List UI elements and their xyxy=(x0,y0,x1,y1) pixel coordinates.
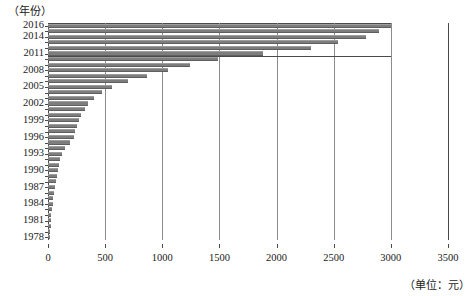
y-tick-1984: 1984 xyxy=(23,198,44,209)
y-tick-mark xyxy=(45,37,48,38)
y-axis-tick-labels: 2016201420112008200520021999199619931990… xyxy=(0,23,44,240)
y-tick-1996: 1996 xyxy=(23,132,44,143)
bar-2015 xyxy=(48,29,379,33)
y-tick-mark xyxy=(45,93,48,94)
y-tick-1990: 1990 xyxy=(23,165,44,176)
y-tick-mark xyxy=(45,198,48,199)
y-tick-mark xyxy=(45,170,48,171)
x-axis-tick-labels: 0500100015002000250030003500 xyxy=(0,244,476,264)
bar-2016 xyxy=(48,24,391,28)
bar-1980 xyxy=(48,224,51,228)
bar-2014 xyxy=(48,35,366,39)
bar-2000 xyxy=(48,113,81,117)
y-tick-mark xyxy=(45,31,48,32)
bar-1996 xyxy=(48,135,74,139)
bar-2010 xyxy=(48,57,218,61)
x-tick-mark-1500 xyxy=(219,244,220,248)
y-tick-mark xyxy=(45,59,48,60)
x-tick-mark-2000 xyxy=(277,244,278,248)
y-tick-mark xyxy=(45,237,48,238)
x-tick-500: 500 xyxy=(97,252,113,263)
y-tick-mark xyxy=(45,232,48,233)
y-tick-mark xyxy=(45,98,48,99)
y-tick-mark xyxy=(45,226,48,227)
bar-1989 xyxy=(48,174,57,178)
y-tick-mark xyxy=(45,104,48,105)
bar-1995 xyxy=(48,140,70,144)
bar-1983 xyxy=(48,207,52,211)
x-axis-title: （单位：元） xyxy=(404,276,470,292)
y-axis-title: （年份） xyxy=(8,2,52,18)
y-tick-mark xyxy=(45,176,48,177)
y-tick-mark xyxy=(45,54,48,55)
y-tick-1987: 1987 xyxy=(23,182,44,193)
bar-1991 xyxy=(48,163,59,167)
y-tick-1981: 1981 xyxy=(23,215,44,226)
bar-chart: （年份） 20162014201120082005200219991996199… xyxy=(0,0,476,296)
plot-area xyxy=(48,23,448,240)
bar-1981 xyxy=(48,218,51,222)
y-tick-1999: 1999 xyxy=(23,115,44,126)
bar-1998 xyxy=(48,124,77,128)
bar-2001 xyxy=(48,107,85,111)
mid-rule xyxy=(48,56,391,57)
y-tick-1978: 1978 xyxy=(23,232,44,243)
y-tick-mark xyxy=(45,182,48,183)
y-tick-2014: 2014 xyxy=(23,31,44,42)
x-tick-1500: 1500 xyxy=(209,252,230,263)
y-tick-mark xyxy=(45,87,48,88)
bar-2002 xyxy=(48,101,88,105)
gridline-3500 xyxy=(448,23,449,240)
y-tick-mark xyxy=(45,187,48,188)
y-tick-mark xyxy=(45,81,48,82)
bar-2006 xyxy=(48,79,128,83)
y-tick-2008: 2008 xyxy=(23,65,44,76)
y-tick-mark xyxy=(45,65,48,66)
bar-1987 xyxy=(48,185,55,189)
x-tick-2000: 2000 xyxy=(266,252,287,263)
x-tick-3500: 3500 xyxy=(438,252,459,263)
bar-2009 xyxy=(48,63,190,67)
y-tick-mark xyxy=(45,209,48,210)
y-tick-mark xyxy=(45,148,48,149)
y-tick-mark xyxy=(45,115,48,116)
bar-1994 xyxy=(48,146,65,150)
y-tick-2011: 2011 xyxy=(23,48,44,59)
x-tick-mark-3500 xyxy=(448,244,449,248)
y-tick-mark xyxy=(45,70,48,71)
bar-1993 xyxy=(48,152,62,156)
y-tick-mark xyxy=(45,109,48,110)
bar-2013 xyxy=(48,40,338,44)
y-tick-mark xyxy=(45,221,48,222)
y-tick-1993: 1993 xyxy=(23,148,44,159)
x-tick-mark-500 xyxy=(105,244,106,248)
bar-1997 xyxy=(48,129,75,133)
y-tick-mark xyxy=(45,76,48,77)
x-tick-mark-3000 xyxy=(391,244,392,248)
y-tick-mark xyxy=(45,204,48,205)
y-tick-mark xyxy=(45,126,48,127)
y-tick-mark xyxy=(45,132,48,133)
y-tick-2005: 2005 xyxy=(23,81,44,92)
x-tick-0: 0 xyxy=(45,252,50,263)
bar-1982 xyxy=(48,213,51,217)
y-tick-mark xyxy=(45,120,48,121)
x-tick-mark-1000 xyxy=(162,244,163,248)
bar-1978 xyxy=(48,235,50,239)
bar-2004 xyxy=(48,90,102,94)
bar-2007 xyxy=(48,74,147,78)
bar-2005 xyxy=(48,85,112,89)
y-tick-mark xyxy=(45,26,48,27)
y-tick-mark xyxy=(45,137,48,138)
y-tick-mark xyxy=(45,159,48,160)
bar-2003 xyxy=(48,96,94,100)
bar-1979 xyxy=(48,229,50,233)
bar-2011 xyxy=(48,51,263,55)
bar-1986 xyxy=(48,191,54,195)
y-tick-2002: 2002 xyxy=(23,98,44,109)
x-tick-mark-0 xyxy=(48,244,49,248)
bar-1999 xyxy=(48,118,79,122)
y-tick-2016: 2016 xyxy=(23,20,44,31)
x-tick-mark-2500 xyxy=(334,244,335,248)
x-tick-1000: 1000 xyxy=(152,252,173,263)
